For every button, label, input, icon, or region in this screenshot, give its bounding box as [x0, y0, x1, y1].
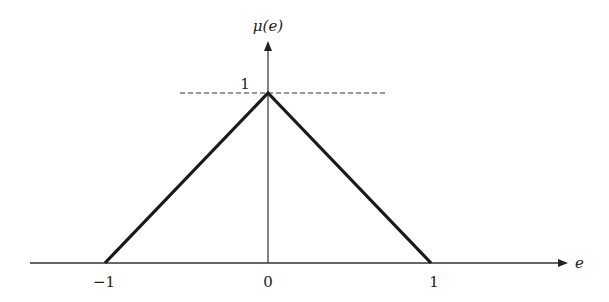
membership-function-chart: μ(e) e −1 0 1 1	[0, 0, 609, 302]
x-axis-label: e	[575, 254, 584, 272]
tick-label-1: 1	[429, 273, 439, 291]
y-tick-label-1: 1	[240, 75, 250, 93]
y-axis-label: μ(e)	[253, 17, 283, 35]
tick-label-neg1: −1	[93, 273, 115, 291]
tick-label-0: 0	[263, 273, 273, 291]
